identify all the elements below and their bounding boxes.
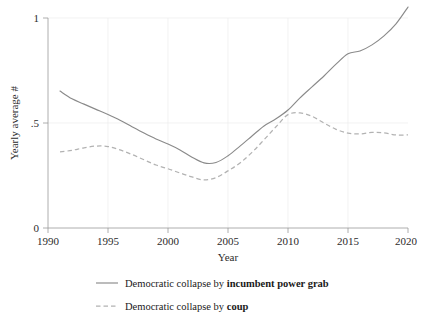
y-axis: 1 .5 0 Yearly average # <box>8 12 48 234</box>
y-tick-label-1: 1 <box>34 12 40 24</box>
y-tick-label-0: 0 <box>34 222 40 234</box>
y-tick-label-05: .5 <box>31 117 40 129</box>
x-tick-label-2020: 2020 <box>395 235 418 247</box>
x-axis-title: Year <box>218 251 239 263</box>
series-line-incumbent-power-grab <box>60 7 408 163</box>
x-tick-label-1995: 1995 <box>97 235 120 247</box>
line-chart: 1 .5 0 Yearly average # 1990 1995 2000 2… <box>0 0 422 317</box>
chart-container: 1 .5 0 Yearly average # 1990 1995 2000 2… <box>0 0 422 317</box>
x-tick-label-2010: 2010 <box>277 235 300 247</box>
chart-legend: Democratic collapse by incumbent power g… <box>96 278 329 312</box>
series-group <box>60 7 408 180</box>
x-tick-label-2000: 2000 <box>157 235 180 247</box>
legend-item-coup[interactable]: Democratic collapse by coup <box>96 301 249 312</box>
y-axis-title: Yearly average # <box>8 85 20 160</box>
x-tick-label-2015: 2015 <box>337 235 360 247</box>
x-tick-label-2005: 2005 <box>217 235 240 247</box>
x-tick-label-1990: 1990 <box>37 235 60 247</box>
legend-label-coup: Democratic collapse by coup <box>125 301 249 312</box>
legend-label-incumbent-power-grab: Democratic collapse by incumbent power g… <box>125 278 329 289</box>
gridlines <box>48 18 408 228</box>
x-axis: 1990 1995 2000 2005 2010 2015 2020 Year <box>37 228 418 263</box>
legend-item-incumbent-power-grab[interactable]: Democratic collapse by incumbent power g… <box>96 278 329 289</box>
